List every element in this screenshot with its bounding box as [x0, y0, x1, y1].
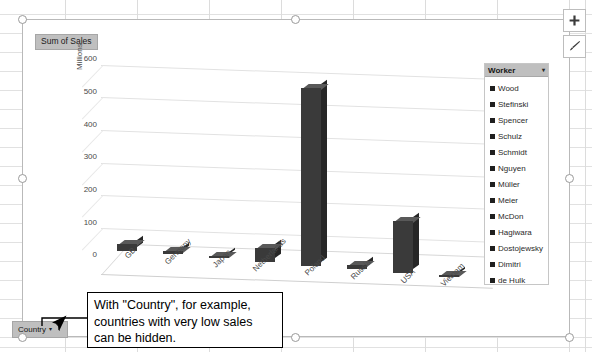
chevron-down-icon[interactable]: ▾ [542, 67, 545, 73]
legend-item-label: Schmidt [498, 148, 527, 157]
legend-item-label: de Hulk [498, 276, 525, 285]
excel-chart-screenshot: Sum of Sales Millions 600 500 400 300 20… [0, 0, 592, 352]
legend-item-label: McDon [498, 212, 523, 221]
paintbrush-icon [568, 40, 581, 53]
selection-handle-top-left[interactable] [18, 15, 27, 24]
legend-item-mcdon[interactable]: McDon [485, 208, 548, 224]
selection-handle-bottom-right[interactable] [565, 333, 574, 342]
selection-handle-bottom-center[interactable] [291, 333, 300, 342]
legend-item-hagiwara[interactable]: Hagiwara [485, 224, 548, 240]
callout-annotation: With "Country", for example, countries w… [87, 292, 283, 348]
gridline-200 [101, 195, 493, 210]
legend-item-muller[interactable]: Müller [485, 176, 548, 192]
legend-item-wood[interactable]: Wood [485, 80, 548, 96]
legend-item-schmidt[interactable]: Schmidt [485, 144, 548, 160]
y-tick-100: 100 [84, 218, 97, 227]
legend-item-spencer[interactable]: Spencer [485, 112, 548, 128]
sum-of-sales-field-button[interactable]: Sum of Sales [35, 34, 98, 50]
legend-item-de-hulk[interactable]: de Hulk [485, 272, 548, 288]
legend-item-label: Meier [498, 196, 518, 205]
selection-handle-middle-right[interactable] [565, 174, 574, 183]
plot-area[interactable]: GB Germany Japan Netherlands Poland Russ… [101, 60, 493, 275]
mouse-cursor-icon [49, 313, 69, 335]
legend-item-label: Müller [498, 180, 520, 189]
plus-icon [569, 15, 580, 26]
selection-handle-middle-left[interactable] [18, 174, 27, 183]
legend-marker-icon [490, 262, 495, 267]
slicer-title: Worker [488, 66, 515, 75]
callout-line-3: can be hidden. [94, 330, 276, 347]
legend-item-meier[interactable]: Meier [485, 192, 548, 208]
worker-slicer[interactable]: Worker ▾ Wood Stefinski Spencer Schulz S… [484, 63, 549, 285]
gridline-300 [101, 163, 493, 178]
legend-item-label: Schulz [498, 132, 522, 141]
legend-item-label: Dostojewsky [498, 244, 543, 253]
legend-item-label: Stefinski [498, 100, 528, 109]
bar-poland[interactable] [301, 88, 321, 266]
y-tick-200: 200 [84, 185, 97, 194]
legend-item-dimitri[interactable]: Dimitri [485, 256, 548, 272]
legend-marker-icon [490, 134, 495, 139]
legend-item-label: Nguyen [498, 164, 526, 173]
legend-marker-icon [490, 166, 495, 171]
chart-elements-button[interactable] [563, 9, 586, 32]
legend-marker-icon [490, 150, 495, 155]
chart-styles-button[interactable] [563, 35, 586, 58]
gridline-600 [101, 65, 493, 80]
legend-marker-icon [490, 246, 495, 251]
legend-marker-icon [490, 102, 495, 107]
legend-marker-icon [490, 118, 495, 123]
chart-tool-buttons [563, 9, 587, 61]
legend-marker-icon [490, 278, 495, 283]
legend-item-label: Hagiwara [498, 228, 532, 237]
legend-item-schulz[interactable]: Schulz [485, 128, 548, 144]
callout-line-1: With "Country", for example, [94, 297, 276, 314]
selection-handle-bottom-left[interactable] [18, 333, 27, 342]
slicer-item-list: Wood Stefinski Spencer Schulz Schmidt Ng… [485, 77, 548, 288]
y-tick-500: 500 [84, 87, 97, 96]
y-tick-400: 400 [84, 120, 97, 129]
legend-item-label: Wood [498, 84, 519, 93]
chart-floor [101, 241, 493, 275]
legend-marker-icon [490, 182, 495, 187]
y-tick-300: 300 [84, 152, 97, 161]
slicer-header[interactable]: Worker ▾ [485, 64, 548, 77]
legend-marker-icon [490, 86, 495, 91]
callout-line-2: countries with very low sales [94, 314, 276, 331]
legend-marker-icon [490, 198, 495, 203]
legend-item-label: Dimitri [498, 260, 521, 269]
y-tick-600: 600 [84, 54, 97, 63]
legend-marker-icon [490, 214, 495, 219]
legend-item-nguyen[interactable]: Nguyen [485, 160, 548, 176]
legend-item-label: Spencer [498, 116, 528, 125]
selection-handle-top-center[interactable] [291, 15, 300, 24]
gridline-500 [101, 97, 493, 112]
legend-item-stefinski[interactable]: Stefinski [485, 96, 548, 112]
bar-usa[interactable] [393, 221, 413, 273]
y-tick-0: 0 [93, 250, 97, 259]
legend-marker-icon [490, 230, 495, 235]
value-axis: 600 500 400 300 200 100 0 [61, 58, 101, 254]
gridline-400 [101, 130, 493, 145]
legend-item-dostojewsky[interactable]: Dostojewsky [485, 240, 548, 256]
